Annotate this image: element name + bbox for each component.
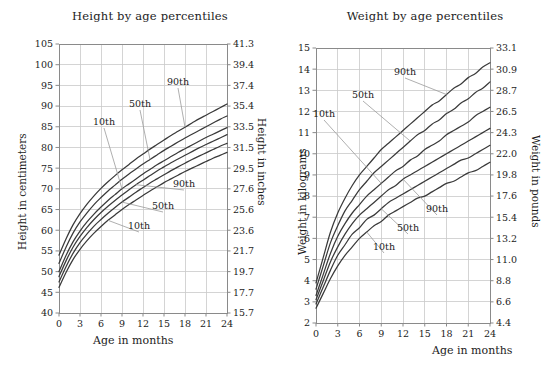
svg-text:50th: 50th [129,98,151,109]
weight-chart-plot: 234567891011121314154.46.68.811.013.215.… [280,0,558,369]
svg-text:35.4: 35.4 [233,100,254,111]
svg-text:15: 15 [158,318,170,329]
svg-text:15: 15 [298,42,310,53]
svg-text:29.5: 29.5 [233,163,254,174]
svg-text:19.8: 19.8 [496,169,517,180]
svg-text:13: 13 [298,85,310,96]
svg-text:30.9: 30.9 [496,64,517,75]
svg-text:22.0: 22.0 [496,148,517,159]
svg-text:18: 18 [179,318,191,329]
svg-text:95: 95 [41,80,53,91]
svg-text:10th: 10th [313,108,335,119]
svg-text:90th: 90th [167,76,189,87]
svg-text:37.4: 37.4 [233,80,254,91]
svg-text:12: 12 [298,106,310,117]
svg-text:15.4: 15.4 [496,212,517,223]
weight-x-axis-title: Age in months [432,344,512,357]
svg-text:4.4: 4.4 [496,317,511,328]
svg-text:15: 15 [419,328,431,339]
svg-text:23.6: 23.6 [233,225,254,236]
svg-text:11: 11 [298,127,310,138]
svg-text:11.0: 11.0 [496,254,517,265]
svg-text:13.2: 13.2 [496,233,517,244]
svg-text:105: 105 [35,38,53,49]
svg-text:14: 14 [298,64,310,75]
svg-text:80: 80 [41,142,53,153]
svg-text:50th: 50th [352,89,374,100]
svg-text:3: 3 [77,318,83,329]
height-chart-panel: Height by age percentiles 40455055606570… [0,0,280,369]
svg-text:55: 55 [41,245,53,256]
svg-text:10th: 10th [93,116,115,127]
svg-text:21.7: 21.7 [233,245,254,256]
svg-text:12: 12 [397,328,409,339]
svg-text:6: 6 [356,328,362,339]
svg-text:41.3: 41.3 [233,38,254,49]
svg-text:60: 60 [41,225,53,236]
svg-text:0: 0 [56,318,62,329]
svg-text:85: 85 [41,121,53,132]
svg-text:10th: 10th [373,241,395,252]
svg-text:50th: 50th [152,200,174,211]
svg-text:12: 12 [137,318,149,329]
svg-text:25.6: 25.6 [233,204,254,215]
svg-text:90th: 90th [426,203,448,214]
svg-text:45: 45 [41,287,53,298]
weight-chart-panel: Weight by age percentiles 23456789101112… [280,0,558,369]
svg-text:90: 90 [41,100,53,111]
growth-charts-figure: Height by age percentiles 40455055606570… [0,0,558,369]
svg-text:24: 24 [484,328,496,339]
svg-text:3: 3 [335,328,341,339]
height-y-axis-right-title: Height in inches [256,118,268,206]
svg-text:70: 70 [41,183,53,194]
svg-text:17.7: 17.7 [233,287,254,298]
svg-text:65: 65 [41,204,53,215]
svg-text:26.5: 26.5 [496,106,517,117]
svg-text:24: 24 [221,318,233,329]
svg-text:9: 9 [378,328,384,339]
svg-text:17.6: 17.6 [496,190,517,201]
svg-text:0: 0 [313,328,319,339]
svg-text:2: 2 [304,317,310,328]
weight-y-axis-left-title: Weight in kilograms [296,148,308,255]
svg-text:6: 6 [98,318,104,329]
svg-text:28.7: 28.7 [496,85,517,96]
svg-text:6.6: 6.6 [496,296,511,307]
svg-text:10th: 10th [128,220,150,231]
svg-text:15.7: 15.7 [233,307,254,318]
svg-text:19.7: 19.7 [233,266,254,277]
svg-text:8.8: 8.8 [496,275,511,286]
svg-text:50: 50 [41,266,53,277]
svg-text:75: 75 [41,163,53,174]
height-y-axis-left-title: Height in centimeters [16,133,28,250]
svg-text:33.1: 33.1 [496,42,517,53]
svg-text:50th: 50th [397,222,419,233]
svg-text:90th: 90th [173,178,195,189]
svg-text:18: 18 [440,328,452,339]
svg-text:9: 9 [119,318,125,329]
svg-text:90th: 90th [394,66,416,77]
svg-text:39.4: 39.4 [233,59,254,70]
svg-text:5: 5 [304,254,310,265]
svg-text:24.3: 24.3 [496,127,517,138]
svg-text:31.5: 31.5 [233,142,254,153]
weight-y-axis-right-title: Weight in pounds [530,135,542,228]
height-chart-plot: 40455055606570758085909510010515.717.719… [0,0,280,369]
svg-text:33.5: 33.5 [233,121,254,132]
svg-text:3: 3 [304,296,310,307]
svg-text:4: 4 [304,275,310,286]
height-x-axis-title: Age in months [93,334,173,347]
svg-text:21: 21 [200,318,212,329]
svg-text:100: 100 [35,59,53,70]
svg-text:40: 40 [41,307,53,318]
svg-text:21: 21 [462,328,474,339]
svg-text:27.6: 27.6 [233,183,254,194]
